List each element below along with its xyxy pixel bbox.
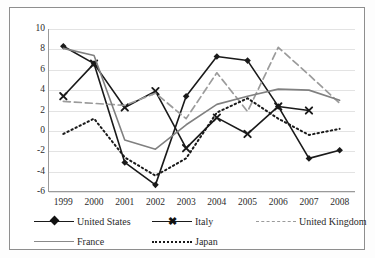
x-axis-tick-label: 2002 xyxy=(140,196,171,210)
chart-legend: United States ✖ Italy United Kingdom xyxy=(34,212,364,254)
x-axis-tick-label: 2008 xyxy=(324,196,355,210)
y-axis: 1086420-2-4-6 xyxy=(24,29,48,192)
x-axis-tick-label: 2004 xyxy=(202,196,233,210)
x-axis-tick-label: 1999 xyxy=(48,196,79,210)
y-axis-tick-label: 0 xyxy=(40,126,45,136)
y-axis-tick-label: 2 xyxy=(40,106,45,116)
data-point-marker-cross xyxy=(60,93,66,99)
data-point-marker-cross xyxy=(244,131,250,137)
figure-container: 1086420-2-4-6 19992000200120022003200420… xyxy=(0,0,375,258)
line-sample-icon xyxy=(34,241,74,242)
legend-swatch-japan xyxy=(152,236,192,247)
legend-label-united-states: United States xyxy=(77,216,131,227)
series-line-united-states xyxy=(63,46,339,185)
series-line-japan xyxy=(63,98,339,175)
legend-label-france: France xyxy=(77,236,104,247)
legend-label-japan: Japan xyxy=(195,236,218,247)
series-line-italy xyxy=(63,64,309,149)
legend-label-italy: Italy xyxy=(195,216,213,227)
dashed-line-sample-icon xyxy=(256,221,296,222)
y-axis-tick-label: 6 xyxy=(40,65,45,75)
x-axis-tick-label: 2000 xyxy=(79,196,110,210)
legend-item-italy: ✖ Italy xyxy=(152,216,213,227)
cross-marker-icon: ✖ xyxy=(168,217,177,226)
y-axis-tick-label: -6 xyxy=(37,187,45,197)
legend-row-2: France Japan xyxy=(34,232,364,250)
series-lines xyxy=(48,29,355,192)
legend-label-united-kingdom: United Kingdom xyxy=(299,216,367,227)
y-axis-tick-label: 4 xyxy=(40,85,45,95)
figure-frame: 1086420-2-4-6 19992000200120022003200420… xyxy=(9,7,365,250)
x-axis-tick-label: 2005 xyxy=(232,196,263,210)
x-axis-tick-label: 2001 xyxy=(109,196,140,210)
legend-row-1: United States ✖ Italy United Kingdom xyxy=(34,212,364,230)
legend-swatch-united-kingdom xyxy=(256,216,296,227)
x-axis-tick-label: 2003 xyxy=(171,196,202,210)
plot-wrap xyxy=(48,29,355,192)
x-axis: 1999200020012002200320042005200620072008 xyxy=(48,196,355,210)
dotted-line-sample-icon xyxy=(152,241,192,243)
legend-swatch-france xyxy=(34,236,74,247)
legend-item-united-states: United States xyxy=(34,216,131,227)
data-point-marker-cross xyxy=(183,145,189,151)
legend-swatch-italy: ✖ xyxy=(152,216,192,227)
y-axis-tick-label: 10 xyxy=(36,24,46,34)
legend-swatch-united-states xyxy=(34,216,74,227)
legend-item-japan: Japan xyxy=(152,236,218,247)
x-axis-tick-label: 2006 xyxy=(263,196,294,210)
gridline xyxy=(49,192,355,193)
y-axis-tick-label: -2 xyxy=(37,146,45,156)
x-axis-tick-label: 2007 xyxy=(294,196,325,210)
data-point-marker-diamond xyxy=(306,155,313,162)
y-axis-tick-label: 8 xyxy=(40,44,45,54)
diamond-marker-icon xyxy=(50,216,60,226)
data-point-marker-diamond xyxy=(336,147,343,154)
legend-item-france: France xyxy=(34,236,104,247)
y-axis-tick-label: -4 xyxy=(37,167,45,177)
legend-item-united-kingdom: United Kingdom xyxy=(256,216,367,227)
